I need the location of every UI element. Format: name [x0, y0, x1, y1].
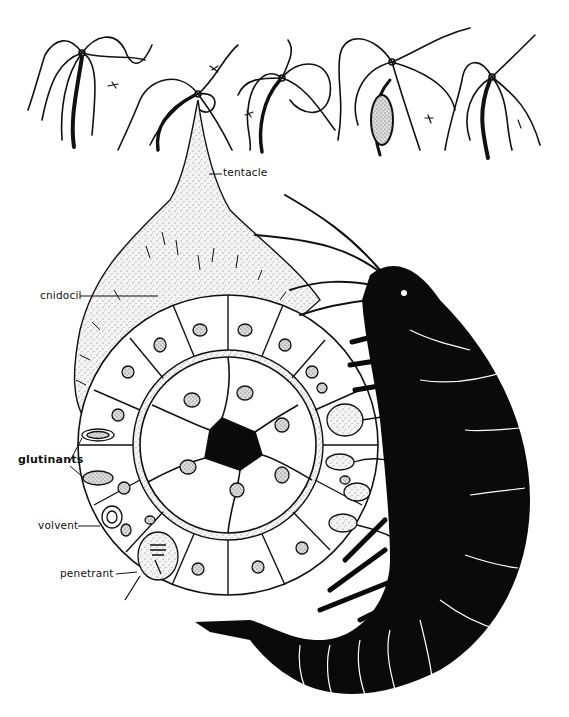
prey-organisms: [108, 66, 521, 128]
label-cnidocil: cnidocil: [40, 289, 82, 301]
amphipod-eye: [401, 290, 407, 296]
polyp-row: [28, 28, 540, 158]
label-volvent: volvent: [38, 519, 78, 531]
polyp-5: [445, 35, 540, 158]
polyp-3: [238, 40, 335, 152]
label-penetrant: penetrant: [60, 567, 114, 579]
label-tentacle: tentacle: [223, 166, 268, 178]
polyp-1: [28, 37, 152, 147]
hydra-diagram: [0, 0, 569, 717]
polyp-4: [338, 28, 470, 155]
label-glutinants: glutinants: [18, 453, 83, 466]
polyp-2: [118, 45, 238, 150]
